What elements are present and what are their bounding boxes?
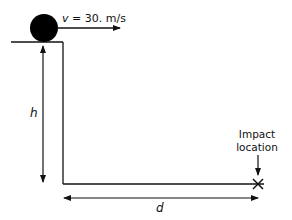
impact-label-line2: location [236, 141, 278, 153]
velocity-label: v = 30. m/s [62, 12, 126, 25]
height-label: h [30, 106, 38, 120]
projectile-diagram: v = 30. m/s h d Impact location [0, 0, 292, 220]
impact-label-line1: Impact [239, 128, 275, 140]
distance-label: d [156, 201, 164, 215]
ball [30, 14, 58, 42]
